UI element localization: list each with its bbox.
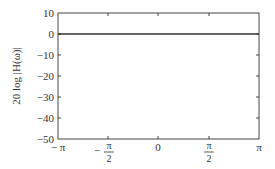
magnitude-response-chart: 10 0 −10 −20 −30 −40 −50 − π − π 2 0 π 2… — [0, 0, 275, 169]
x-tick-label-neg-pi: − π — [51, 141, 66, 153]
y-tick-label: −40 — [37, 112, 55, 124]
y-axis-title-text: 20 log |H(ω)| — [10, 47, 23, 104]
y-tick-label: 10 — [43, 7, 55, 19]
x-tick-label-half-den: 2 — [207, 153, 212, 164]
y-axis-title: 20 log |H(ω)| — [10, 47, 23, 104]
y-tick-label: −30 — [37, 91, 55, 103]
y-tick-label: −10 — [37, 49, 55, 61]
x-tick-labels: − π − π 2 0 π 2 π — [51, 140, 262, 164]
y-tick-labels: 10 0 −10 −20 −30 −40 −50 — [37, 7, 55, 145]
y-tick-label: 0 — [49, 28, 55, 40]
x-tick-label-half-num: π — [206, 140, 211, 151]
x-tick-label-neg-half-den: 2 — [107, 153, 112, 164]
x-tick-label-neg-half-sign: − — [94, 144, 100, 156]
y-axis-ticks — [58, 34, 259, 118]
x-axis-ticks — [108, 13, 209, 139]
plot-frame — [58, 13, 259, 139]
x-tick-label-neg-half-num: π — [106, 140, 111, 151]
x-tick-label-pi: π — [256, 141, 262, 153]
x-tick-label-zero: 0 — [155, 141, 161, 153]
y-tick-label: −20 — [37, 70, 55, 82]
